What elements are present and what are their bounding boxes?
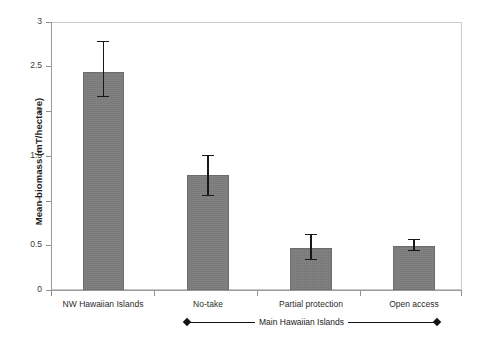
y-axis-line (51, 22, 52, 291)
y-tick-label-2.5: 2.5 (0, 61, 42, 70)
y-tick-2 (46, 111, 51, 112)
error-bar-stem-partial-protection (310, 234, 311, 260)
x-tick-label-nw-hawaiian-islands: NW Hawaiian Islands (43, 299, 163, 309)
y-tick-1.5 (46, 156, 51, 157)
y-axis-title: Mean biomass (mT/hectare) (33, 62, 44, 262)
x-tick-boundary-1 (154, 291, 155, 296)
error-bar-cap-upper-nw-hawaiian-islands (97, 41, 109, 42)
y-tick-1 (46, 201, 51, 202)
group-bracket-end-left-icon (183, 318, 191, 326)
x-tick-boundary-2 (257, 291, 258, 296)
error-bar-cap-upper-partial-protection (305, 234, 317, 235)
y-tick-3 (46, 22, 51, 23)
bar-open-access (393, 246, 435, 290)
error-bar-cap-lower-open-access (408, 250, 420, 251)
error-bar-cap-upper-open-access (408, 239, 420, 240)
y-tick-label-3: 3 (0, 17, 42, 26)
y-tick-label-1: 1 (0, 196, 42, 205)
bar-chart-figure: Mean biomass (mT/hectare) 3 2.5 2 1.5 1 … (0, 0, 480, 342)
error-bar-stem-nw-hawaiian-islands (103, 41, 104, 97)
y-tick-0.5 (46, 245, 51, 246)
y-tick-label-0.5: 0.5 (0, 240, 42, 249)
x-tick-boundary-3 (360, 291, 361, 296)
error-bar-cap-lower-nw-hawaiian-islands (97, 96, 109, 97)
group-bracket-end-right-icon (433, 318, 441, 326)
bar-nw-hawaiian-islands (83, 72, 124, 290)
y-tick-label-1.5: 1.5 (0, 151, 42, 160)
error-bar-stem-no-take (207, 155, 208, 196)
y-tick-2.5 (46, 66, 51, 67)
y-tick-label-0: 0 (0, 285, 42, 294)
group-bracket-label: Main Hawaiian Islands (255, 317, 348, 327)
y-tick-label-2: 2 (0, 106, 42, 115)
error-bar-cap-upper-no-take (202, 155, 214, 156)
x-tick-boundary-0 (51, 291, 52, 296)
x-tick-boundary-4 (461, 291, 462, 296)
x-tick-label-open-access: Open access (364, 299, 464, 309)
error-bar-cap-lower-no-take (202, 195, 214, 196)
x-tick-label-partial-protection: Partial protection (261, 299, 361, 309)
x-tick-label-no-take: No-take (158, 299, 258, 309)
error-bar-cap-lower-partial-protection (305, 259, 317, 260)
